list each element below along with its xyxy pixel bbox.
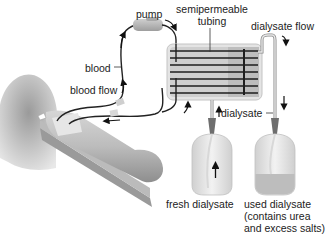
dialyzer-illustration [167,44,262,100]
semipermeable-label-line1: semipermeable [176,3,248,15]
fresh-dialysate-bag [192,118,232,195]
blood-flow-label: blood flow [70,84,117,96]
dialysate-label: dialysate [221,107,262,119]
pump-label: pump [136,8,162,20]
hemodialysis-diagram: pump semipermeable tubing dialysate flow… [0,0,331,234]
used-dialysate-label: used dialysate (contains urea and excess… [244,198,325,234]
semipermeable-label-line2: tubing [176,15,248,27]
used-dialysate-line2: (contains urea [244,210,325,222]
semipermeable-tubing-label: semipermeable tubing [176,3,248,27]
used-dialysate-bag [255,118,295,195]
blood-label: blood [85,62,111,74]
arm-illustration [38,110,163,207]
fresh-dialysate-label: fresh dialysate [166,198,234,210]
used-dialysate-line3: and excess salts) [244,222,325,234]
dialysate-flow-label: dialysate flow [251,20,314,32]
used-dialysate-line1: used dialysate [244,198,325,210]
